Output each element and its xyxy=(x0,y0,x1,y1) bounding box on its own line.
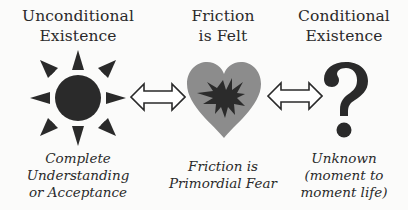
question-mark-icon xyxy=(322,60,370,140)
sun-icon xyxy=(28,48,128,148)
double-arrow-icon xyxy=(130,82,186,112)
caption-line: (moment to xyxy=(276,167,408,184)
heart-with-starburst-icon xyxy=(185,60,263,140)
caption-line: Complete xyxy=(10,150,146,167)
title-line: Existence xyxy=(276,26,408,46)
caption-line: Friction is xyxy=(155,158,291,175)
title-line: Unconditional xyxy=(10,6,146,26)
caption-line: moment life) xyxy=(276,184,408,201)
caption-primordial-fear: Friction is Primordial Fear xyxy=(155,158,291,192)
title-line: Friction xyxy=(155,6,291,26)
caption-complete-understanding: Complete Understanding or Acceptance xyxy=(10,150,146,201)
title-line: is Felt xyxy=(155,26,291,46)
caption-line: or Acceptance xyxy=(10,184,146,201)
title-conditional-existence: Conditional Existence xyxy=(276,6,408,46)
title-unconditional-existence: Unconditional Existence xyxy=(10,6,146,46)
caption-line: Primordial Fear xyxy=(155,175,291,192)
title-line: Conditional xyxy=(276,6,408,26)
caption-unknown: Unknown (moment to moment life) xyxy=(276,150,408,201)
caption-line: Unknown xyxy=(276,150,408,167)
title-friction-is-felt: Friction is Felt xyxy=(155,6,291,46)
title-line: Existence xyxy=(10,26,146,46)
caption-line: Understanding xyxy=(10,167,146,184)
double-arrow-icon xyxy=(267,81,323,111)
